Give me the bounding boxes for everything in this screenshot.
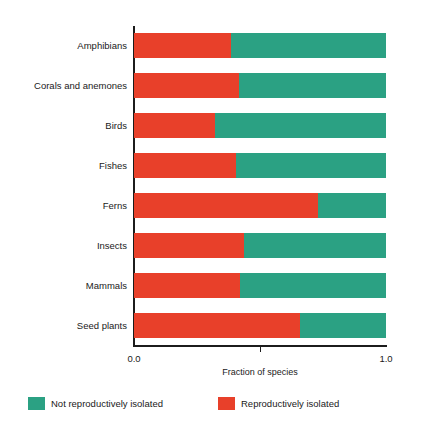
legend-entry-label: Reproductively isolated [241, 398, 339, 409]
bar-row [134, 313, 386, 338]
bar-segment-reproductively-isolated [134, 313, 300, 338]
category-label: Ferns [5, 200, 127, 211]
bar-row [134, 113, 386, 138]
bar-row [134, 273, 386, 298]
bar-segment-not-reproductively-isolated [236, 153, 386, 178]
bar-segment-not-reproductively-isolated [240, 273, 386, 298]
x-axis-tick-label: 0.0 [127, 353, 140, 364]
chart-legend: Not reproductively isolated Reproductive… [0, 396, 435, 416]
bar-segment-reproductively-isolated [134, 153, 236, 178]
category-label: Corals and anemones [5, 80, 127, 91]
bar-segment-reproductively-isolated [134, 233, 244, 258]
legend-swatch-icon [28, 397, 45, 410]
bar-row [134, 233, 386, 258]
bar-row [134, 33, 386, 58]
stacked-bar-chart: AmphibiansCorals and anemonesBirdsFishes… [0, 0, 435, 441]
x-axis-title: Fraction of species [134, 367, 386, 377]
legend-swatch-icon [218, 397, 235, 410]
bar-segment-not-reproductively-isolated [318, 193, 386, 218]
legend-entry-reproductively-isolated[interactable]: Reproductively isolated [218, 396, 339, 410]
category-label: Insects [5, 240, 127, 251]
category-label: Seed plants [5, 320, 127, 331]
bar-row [134, 73, 386, 98]
bar-segment-reproductively-isolated [134, 193, 318, 218]
legend-entry-not-reproductively-isolated[interactable]: Not reproductively isolated [28, 396, 163, 410]
category-axis-labels: AmphibiansCorals and anemonesBirdsFishes… [0, 26, 127, 346]
legend-entry-label: Not reproductively isolated [51, 398, 163, 409]
bar-segment-reproductively-isolated [134, 33, 231, 58]
bar-row [134, 153, 386, 178]
bar-segment-not-reproductively-isolated [231, 33, 386, 58]
bar-segment-reproductively-isolated [134, 113, 215, 138]
category-label: Amphibians [5, 40, 127, 51]
x-axis-tick-label: 1.0 [379, 353, 392, 364]
bar-segment-not-reproductively-isolated [215, 113, 386, 138]
bar-row [134, 193, 386, 218]
bar-segment-not-reproductively-isolated [244, 233, 386, 258]
bar-segment-not-reproductively-isolated [239, 73, 386, 98]
bar-segment-reproductively-isolated [134, 273, 240, 298]
category-label: Fishes [5, 160, 127, 171]
plot-area [134, 26, 386, 345]
x-axis-tick [260, 346, 261, 352]
category-label: Birds [5, 120, 127, 131]
bar-segment-reproductively-isolated [134, 73, 239, 98]
bar-segment-not-reproductively-isolated [300, 313, 386, 338]
category-label: Mammals [5, 280, 127, 291]
